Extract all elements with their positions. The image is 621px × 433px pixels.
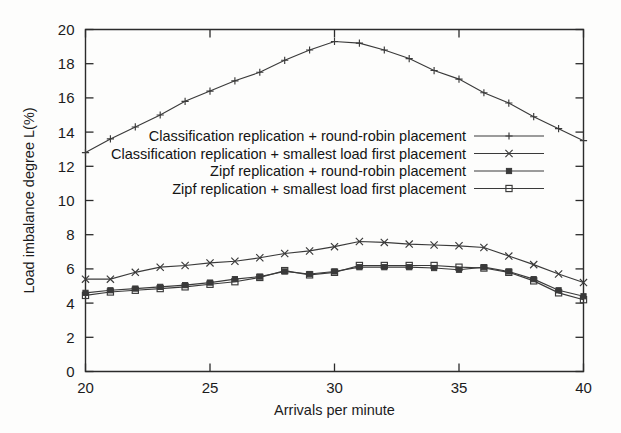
y-tick-label: 14	[58, 124, 75, 141]
plus-marker	[231, 77, 238, 84]
legend-label: Zipf replication + smallest load first p…	[172, 181, 466, 197]
plus-marker	[331, 38, 338, 45]
plus-marker	[306, 46, 313, 53]
plus-marker	[555, 125, 562, 132]
line-chart: 024681012141618202025303540 Classificati…	[0, 0, 621, 433]
y-tick-label: 0	[66, 363, 74, 380]
chart-legend: Classification replication + round-robin…	[111, 128, 544, 197]
plus-marker	[132, 123, 139, 130]
y-axis-title: Load imbalance degree L(%)	[21, 107, 37, 293]
plus-marker	[206, 87, 213, 94]
plus-marker	[480, 89, 487, 96]
y-tick-label: 20	[58, 21, 75, 38]
filled-square-marker	[506, 168, 511, 173]
x-tick-label: 40	[575, 379, 592, 396]
chart-axes	[86, 30, 584, 372]
plus-marker	[381, 46, 388, 53]
x-tick-label: 35	[451, 379, 468, 396]
x-tick-label: 25	[202, 379, 219, 396]
plus-marker	[455, 75, 462, 82]
y-tick-label: 12	[58, 158, 75, 175]
y-tick-label: 10	[58, 192, 75, 209]
plus-marker	[281, 57, 288, 64]
plus-marker	[431, 67, 438, 74]
x-tick-label: 30	[326, 379, 343, 396]
y-tick-label: 8	[66, 226, 74, 243]
plus-marker	[82, 149, 89, 156]
legend-label: Classification replication + round-robin…	[149, 128, 466, 144]
x-axis-title: Arrivals per minute	[274, 402, 395, 418]
cross-marker	[530, 261, 537, 268]
plus-marker	[356, 40, 363, 47]
plus-marker	[182, 98, 189, 105]
plus-marker	[580, 137, 587, 144]
y-tick-label: 16	[58, 89, 75, 106]
plus-marker	[107, 135, 114, 142]
plus-marker	[530, 113, 537, 120]
y-tick-label: 6	[66, 260, 74, 277]
plot-frame	[86, 30, 584, 372]
legend-label: Zipf replication + round-robin placement	[210, 163, 466, 179]
data-series	[82, 238, 587, 286]
tick-labels: 024681012141618202025303540	[58, 21, 592, 396]
y-tick-label: 2	[66, 329, 74, 346]
plus-marker	[157, 111, 164, 118]
x-tick-label: 20	[77, 379, 94, 396]
plus-marker	[256, 69, 263, 76]
series-line	[86, 242, 584, 283]
plus-marker	[406, 55, 413, 62]
cross-marker	[555, 270, 562, 277]
chart-figure: 024681012141618202025303540 Classificati…	[0, 0, 621, 433]
plus-marker	[505, 132, 512, 139]
plus-marker	[505, 99, 512, 106]
legend-label: Classification replication + smallest lo…	[111, 146, 466, 162]
y-tick-label: 4	[66, 295, 74, 312]
y-tick-label: 18	[58, 55, 75, 72]
cross-marker	[505, 252, 512, 259]
